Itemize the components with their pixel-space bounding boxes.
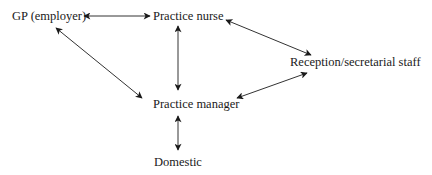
relationship-arrows <box>0 0 432 175</box>
staff-relationship-diagram: GP (employer) Practice nurse Reception/s… <box>0 0 432 175</box>
node-reception-secretarial-staff: Reception/secretarial staff <box>290 55 421 69</box>
node-practice-nurse: Practice nurse <box>153 9 223 23</box>
node-gp-employer: GP (employer) <box>12 9 86 23</box>
edge-reception-manager <box>237 73 307 98</box>
edge-nurse-reception <box>226 20 311 55</box>
edge-gp-manager <box>56 28 142 98</box>
node-domestic: Domestic <box>154 155 202 169</box>
node-practice-manager: Practice manager <box>153 97 239 111</box>
